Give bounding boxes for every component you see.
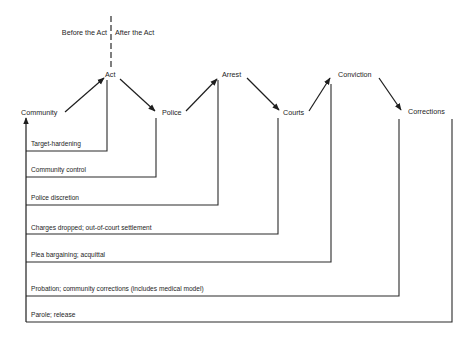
- node-community: Community: [21, 108, 58, 117]
- feedback-label-target-hardening: Target-hardening: [31, 140, 81, 148]
- feedback-label-police-discretion: Police discretion: [31, 194, 79, 201]
- feedback-label-probation: Probation; community corrections (includ…: [31, 285, 204, 293]
- before-the-act-label: Before the Act: [62, 28, 107, 37]
- arrow-police-to-arrest: [186, 79, 217, 111]
- feedback-line-courts: [26, 118, 278, 234]
- arrow-conviction-to-corrections: [379, 78, 401, 110]
- after-the-act-label: After the Act: [115, 28, 154, 37]
- arrow-act-to-police: [120, 79, 155, 111]
- feedback-label-community-control: Community control: [31, 166, 87, 174]
- feedback-label-charges-dropped: Charges dropped; out-of-court settlement: [31, 224, 152, 232]
- arrow-courts-to-conviction: [309, 78, 330, 111]
- node-conviction: Conviction: [338, 70, 372, 79]
- node-arrest: Arrest: [222, 70, 241, 79]
- feedback-label-plea-bargaining: Plea bargaining; acquittal: [31, 251, 106, 259]
- arrow-arrest-to-courts: [247, 78, 279, 110]
- criminal-justice-flow-diagram: Before the Act After the Act Community A…: [0, 0, 475, 340]
- node-corrections: Corrections: [408, 107, 445, 116]
- node-police: Police: [162, 108, 182, 117]
- feedback-label-parole: Parole; release: [31, 311, 76, 318]
- node-act: Act: [105, 70, 115, 79]
- arrow-community-to-act: [65, 78, 104, 112]
- feedback-line-corrections: [26, 119, 399, 296]
- node-courts: Courts: [283, 108, 305, 117]
